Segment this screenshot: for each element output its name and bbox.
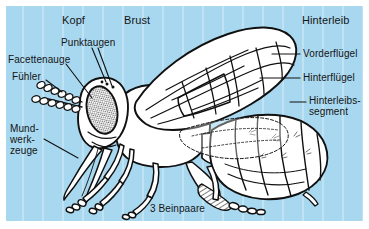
label-vorderfluegel: Vorderflügel bbox=[303, 48, 358, 59]
label-hinterleib: Hinterleib bbox=[302, 15, 349, 26]
label-brust: Brust bbox=[124, 15, 150, 26]
label-hinterleibssegment: Hinterleibs- segment bbox=[309, 95, 361, 117]
label-facettenauge: Facettenauge bbox=[8, 54, 70, 65]
bee-anatomy-figure: Kopf Brust Hinterleib Punktaugen Facette… bbox=[0, 0, 369, 229]
label-kopf: Kopf bbox=[62, 15, 85, 26]
label-beinpaare: 3 Beinpaare bbox=[150, 203, 205, 214]
illustration-panel: Kopf Brust Hinterleib Punktaugen Facette… bbox=[6, 6, 363, 221]
label-hinterfluegel: Hinterflügel bbox=[303, 72, 355, 83]
label-punktaugen: Punktaugen bbox=[61, 37, 115, 48]
sting bbox=[303, 192, 318, 206]
label-fuehler: Fühler bbox=[12, 71, 41, 82]
antenna bbox=[31, 80, 82, 113]
label-mundwerkzeuge: Mund- werk- zeuge bbox=[10, 123, 39, 156]
